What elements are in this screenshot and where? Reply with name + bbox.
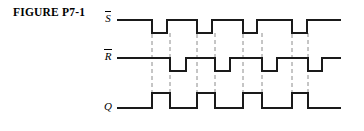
waveform-s-bar	[118, 20, 340, 33]
waveform-q	[118, 93, 340, 108]
waveform-canvas	[0, 0, 364, 131]
signal-waveforms	[118, 20, 340, 108]
figure-timing-diagram: FIGURE P7-1 S R Q	[0, 0, 364, 131]
waveform-r-bar	[118, 58, 340, 71]
